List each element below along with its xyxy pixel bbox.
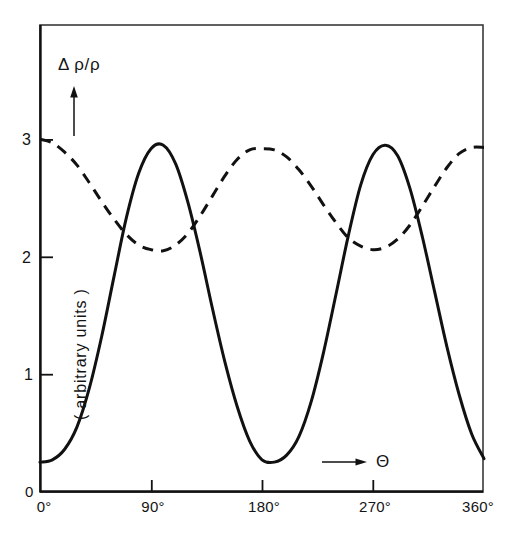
y-tick-label-2: 2 xyxy=(22,249,31,267)
y-axis-units-label: ( arbitrary units ) xyxy=(72,288,90,420)
solid-curve-path xyxy=(40,144,484,463)
x-tick-label-0: 0° xyxy=(37,498,52,515)
y-axis-title: Δ ρ/ρ xyxy=(58,55,100,75)
y-tick-label-1: 1 xyxy=(24,366,33,384)
plot-frame xyxy=(40,25,483,492)
y-tick-label-3: 3 xyxy=(22,131,31,149)
x-axis-arrow-icon xyxy=(322,458,367,465)
x-axis-ticks xyxy=(152,480,373,491)
x-tick-label-180: 180° xyxy=(248,498,280,515)
x-axis-symbol-label: Θ xyxy=(376,452,389,472)
y-tick-label-0: 0 xyxy=(25,483,33,500)
y-axis-ticks xyxy=(41,140,53,375)
x-tick-label-90: 90° xyxy=(141,498,164,515)
plot-canvas xyxy=(0,0,513,539)
x-tick-label-360: 360° xyxy=(462,498,494,515)
x-tick-label-270: 270° xyxy=(359,498,391,515)
dashed-curve-path xyxy=(40,139,484,251)
y-axis-arrow-icon xyxy=(70,86,78,136)
figure-container: Δ ρ/ρ ( arbitrary units ) Θ 0 1 2 3 0° 9… xyxy=(0,0,513,539)
